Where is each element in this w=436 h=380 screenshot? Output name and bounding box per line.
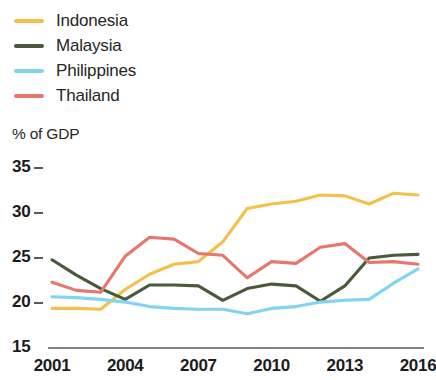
series-group — [52, 193, 418, 314]
series-line-malaysia — [52, 254, 418, 301]
